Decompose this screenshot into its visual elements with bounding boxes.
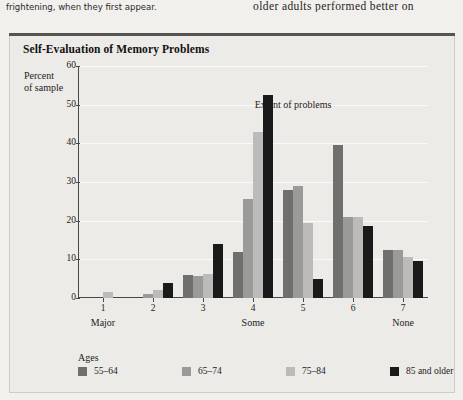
- figure-container: Self-Evaluation of Memory Problems Perce…: [9, 36, 455, 393]
- x-axis-tick: [103, 298, 104, 302]
- bar: [153, 290, 163, 298]
- x-axis-tick-label: 6: [343, 303, 363, 313]
- bar: [263, 95, 273, 298]
- y-axis-tick: [76, 143, 80, 144]
- bar: [253, 132, 263, 298]
- y-axis-tick-label: 40: [36, 137, 76, 147]
- bar: [143, 294, 153, 298]
- plot-area: 0102030405060 1Major234Some567None Exten…: [78, 66, 428, 298]
- bar: [403, 257, 413, 298]
- legend-swatch: [390, 367, 399, 376]
- bar: [203, 274, 213, 298]
- legend-swatch: [286, 367, 295, 376]
- legend-swatch: [182, 367, 191, 376]
- figure-title: Self-Evaluation of Memory Problems: [23, 43, 209, 55]
- x-axis-tick-label: 4: [243, 303, 263, 313]
- x-axis-category-label: Some: [218, 317, 288, 328]
- x-axis-tick: [353, 298, 354, 302]
- y-axis-title: Percent of sample: [24, 70, 76, 93]
- bar: [353, 217, 363, 298]
- x-axis-category-label: Major: [68, 317, 138, 328]
- x-axis-tick: [253, 298, 254, 302]
- x-axis-title: Extent of problems: [213, 99, 373, 110]
- bar: [413, 261, 423, 298]
- y-axis-tick-label: 50: [36, 99, 76, 109]
- legend-label: 65–74: [198, 366, 222, 376]
- left-column-text: frightening, when they first appear.: [6, 2, 221, 13]
- right-column-text: older adults performed better on: [253, 0, 461, 12]
- bar: [383, 250, 393, 298]
- y-axis-title-line-2: of sample: [24, 82, 76, 94]
- bar: [393, 250, 403, 298]
- x-axis-tick: [403, 298, 404, 302]
- x-axis-category-label: None: [368, 317, 438, 328]
- bar: [163, 283, 173, 298]
- x-axis-tick: [203, 298, 204, 302]
- y-axis-tick: [76, 259, 80, 260]
- bar: [293, 186, 303, 298]
- y-axis-tick-label: 20: [36, 215, 76, 225]
- legend-label: 75–84: [302, 366, 326, 376]
- bar: [103, 292, 113, 298]
- bar: [283, 190, 293, 298]
- bar: [213, 244, 223, 298]
- bar: [363, 226, 373, 298]
- y-axis-tick: [76, 298, 80, 299]
- y-axis-tick: [76, 182, 80, 183]
- bar: [333, 145, 343, 298]
- legend-label: 55–64: [94, 366, 118, 376]
- bar: [243, 199, 253, 298]
- bar: [233, 252, 243, 298]
- page-text-fragment: frightening, when they first appear. old…: [0, 0, 463, 32]
- y-axis-title-line-1: Percent: [24, 70, 76, 82]
- y-axis-tick: [76, 221, 80, 222]
- y-axis-tick: [76, 66, 80, 67]
- bar: [343, 217, 353, 298]
- x-axis-tick: [153, 298, 154, 302]
- y-axis-tick-label: 10: [36, 253, 76, 263]
- y-axis-tick-label: 60: [36, 60, 76, 70]
- bar: [183, 275, 193, 298]
- bar: [193, 276, 203, 298]
- legend-swatch: [78, 367, 87, 376]
- legend-title: Ages: [78, 352, 99, 363]
- x-axis-tick-label: 5: [293, 303, 313, 313]
- y-axis-tick-label: 30: [36, 176, 76, 186]
- x-axis-tick: [303, 298, 304, 302]
- x-axis-tick-label: 1: [93, 303, 113, 313]
- y-axis-tick-label: 0: [36, 292, 76, 302]
- x-axis-tick-label: 7: [393, 303, 413, 313]
- y-axis-tick: [76, 105, 80, 106]
- gridline: [78, 66, 428, 67]
- x-axis-tick-label: 2: [143, 303, 163, 313]
- x-axis-tick-label: 3: [193, 303, 213, 313]
- legend-label: 85 and older: [406, 366, 454, 376]
- bar: [303, 223, 313, 298]
- bar: [313, 279, 323, 298]
